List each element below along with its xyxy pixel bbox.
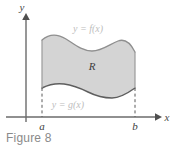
figure-container: y x a b y = f(x) y = g(x) R Figure 8 <box>0 0 174 153</box>
x-axis-arrowhead <box>155 113 162 121</box>
lower-curve-label: y = g(x) <box>51 99 85 111</box>
upper-curve-label: y = f(x) <box>72 23 104 35</box>
y-axis-label: y <box>19 1 25 13</box>
x-axis-label: x <box>164 111 170 123</box>
figure-caption: Figure 8 <box>6 131 52 145</box>
region-label-r: R <box>88 60 96 72</box>
bound-label-b: b <box>132 120 138 132</box>
y-axis-arrowhead <box>22 13 30 20</box>
